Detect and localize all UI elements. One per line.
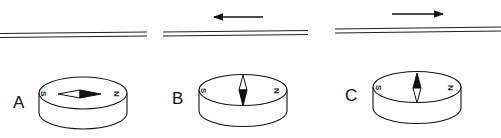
compass-c: S N [373,72,461,124]
panel-b: B S N [163,17,308,127]
compass-b: S N [199,75,287,127]
panel-a: A S N [0,32,147,129]
panel-label-a: A [13,93,25,112]
north-label-a: N [112,91,121,97]
north-label-b: N [272,88,281,94]
south-label-b: S [199,88,208,94]
wire-a [0,32,147,38]
compass-diagram: A S N B [0,0,501,138]
panel-label-c: C [345,86,357,105]
panel-c: C S N [335,14,501,124]
wire-b [163,31,308,37]
wire-c [335,27,501,33]
compass-a: S N [39,77,127,129]
panel-label-b: B [172,89,183,108]
north-label-c: N [446,85,455,91]
south-label-c: S [374,85,383,91]
south-label-a: S [39,91,48,97]
